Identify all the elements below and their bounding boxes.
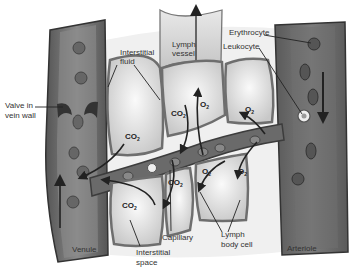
label-interstitial-space: Interstitial	[136, 248, 170, 257]
label-venule: Venule	[72, 245, 97, 254]
svg-text:body cell: body cell	[221, 240, 253, 249]
svg-text:fluid: fluid	[120, 57, 135, 66]
label-capillary: Capillary	[162, 233, 193, 242]
svg-text:vessel: vessel	[172, 49, 195, 58]
arteriole	[275, 22, 348, 255]
label-lymph-vessel: Lymph	[172, 40, 196, 49]
capillary-exchange-diagram: CO2 CO2 O2 O2 CO2 CO2 O2 O2 Interstitial…	[0, 0, 356, 273]
erythrocyte-cell	[308, 38, 320, 50]
label-arteriole: Arteriole	[287, 244, 317, 253]
svg-text:vein wall: vein wall	[5, 111, 36, 120]
label-leukocyte: Leukocyte	[223, 42, 260, 51]
label-interstitial-fluid: Interstitial	[120, 48, 154, 57]
label-erythrocyte: Erythrocyte	[229, 28, 270, 37]
label-lymph-body-cell: Lymph	[221, 230, 245, 239]
svg-text:space: space	[136, 258, 158, 267]
venule	[46, 20, 108, 262]
label-valve: Valve in	[5, 101, 33, 110]
